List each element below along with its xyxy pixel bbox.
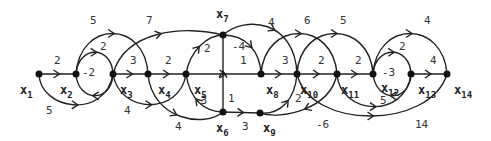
- node-name: x: [266, 83, 273, 97]
- edge-gain-label: 4: [175, 120, 182, 133]
- node-label-x6: x6: [216, 121, 229, 138]
- edge-gain-label: 2: [54, 54, 61, 67]
- edge-gain-label: 5: [380, 94, 387, 107]
- node-x9: [257, 110, 264, 117]
- node-name: x: [381, 81, 388, 95]
- node-subscript: 1: [27, 90, 32, 100]
- node-label-x2: x2: [60, 83, 73, 100]
- edge-gain-label: 6: [304, 14, 311, 27]
- node-x3: [110, 71, 117, 78]
- edge-gain-label: 2: [355, 54, 362, 67]
- edge-gain-label: 14: [415, 118, 429, 131]
- edge-gain-label: 2: [165, 54, 172, 67]
- node-label-x13: x13: [418, 83, 436, 100]
- node-subscript: 12: [388, 88, 399, 98]
- node-subscript: 6: [223, 128, 228, 138]
- node-label-x8: x8: [266, 83, 279, 100]
- edge-gain-label: 1: [240, 54, 247, 67]
- edge-gain-label: 4: [424, 14, 431, 27]
- node-x2: [73, 71, 80, 78]
- node-subscript: 13: [425, 90, 436, 100]
- node-x7: [220, 32, 227, 39]
- edge-x8-x11: [261, 34, 337, 75]
- node-name: x: [216, 7, 223, 21]
- node-subscript: 14: [461, 90, 472, 100]
- edge-gain-label: 4: [268, 16, 275, 29]
- node-subscript: 9: [270, 128, 275, 138]
- node-x12: [370, 71, 377, 78]
- node-name: x: [20, 83, 27, 97]
- node-subscript: 2: [67, 90, 72, 100]
- edge-gain-label: 2: [318, 54, 325, 67]
- node-name: x: [60, 83, 67, 97]
- edge-gain-label: -4: [232, 40, 246, 53]
- node-subscript: 3: [127, 90, 132, 100]
- node-x10: [294, 71, 301, 78]
- node-label-x11: x11: [341, 83, 359, 100]
- node-name: x: [341, 83, 348, 97]
- edge-gain-label: -6: [316, 118, 329, 131]
- node-x6: [220, 109, 227, 116]
- node-name: x: [120, 83, 127, 97]
- node-subscript: 5: [201, 90, 206, 100]
- edge-gain-label: 2: [204, 42, 211, 55]
- node-x4: [145, 71, 152, 78]
- node-label-x3: x3: [120, 83, 133, 100]
- node-x13: [408, 71, 415, 78]
- node-name: x: [454, 83, 461, 97]
- node-label-x1: x1: [20, 83, 33, 100]
- node-subscript: 8: [273, 90, 278, 100]
- node-subscript: 4: [165, 90, 171, 100]
- node-name: x: [158, 83, 165, 97]
- edge-gain-label: -3: [382, 66, 395, 79]
- node-name: x: [194, 83, 201, 97]
- edge-gain-label: 3: [282, 54, 289, 67]
- node-name: x: [300, 83, 307, 97]
- node-name: x: [418, 83, 425, 97]
- node-label-x4: x4: [158, 83, 171, 100]
- node-x14: [444, 71, 451, 78]
- node-label-x14: x14: [454, 83, 473, 100]
- edge-x6-x9: [223, 112, 260, 113]
- edge-gain-label: 3: [242, 120, 249, 133]
- edge-gain-label: 5: [46, 104, 53, 117]
- edge-gain-label: -2: [82, 66, 95, 79]
- node-label-x9: x9: [263, 121, 276, 138]
- node-name: x: [263, 121, 270, 135]
- node-subscript: 10: [307, 90, 318, 100]
- edge-gain-label: 4: [430, 54, 437, 67]
- node-subscript: 11: [348, 90, 359, 100]
- node-subscript: 7: [223, 14, 228, 24]
- edge-gain-label: 7: [146, 14, 153, 27]
- node-label-x7: x7: [216, 7, 229, 24]
- signal-flow-graph: 252-2537424-3211-443362-62525142-344 x1x…: [0, 0, 491, 141]
- edge-gain-label: 3: [130, 54, 137, 67]
- edge-gain-label: 5: [340, 14, 347, 27]
- edge-gain-label: 5: [90, 14, 97, 27]
- node-x5: [183, 71, 190, 78]
- edge-gain-label: 4: [124, 104, 131, 117]
- edge-gain-label: 2: [100, 40, 107, 53]
- edge-gain-label: 1: [228, 92, 235, 105]
- node-label-x10: x10: [300, 83, 318, 100]
- node-x1: [36, 71, 43, 78]
- node-x11: [334, 71, 341, 78]
- node-x8: [258, 71, 265, 78]
- edge-gain-label: 2: [399, 40, 406, 53]
- node-name: x: [216, 121, 223, 135]
